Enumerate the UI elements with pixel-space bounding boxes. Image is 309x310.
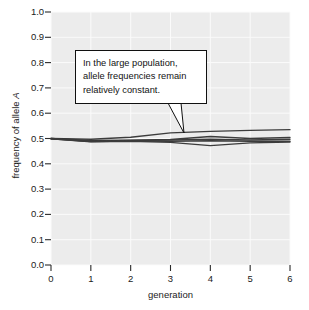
y-axis-title-allele-letter: A (10, 92, 21, 98)
callout-line-2: allele frequencies remain (83, 70, 203, 83)
x-axis-tick-labels: 0123456 (0, 0, 309, 310)
x-tick-label: 1 (81, 273, 101, 284)
x-tick-label: 4 (200, 273, 220, 284)
y-axis-title: frequency of allele A (10, 66, 21, 206)
callout-line-1: In the large population, (83, 57, 203, 70)
x-tick-label: 2 (121, 273, 141, 284)
x-tick-label: 0 (41, 273, 61, 284)
x-tick-label: 5 (240, 273, 260, 284)
y-axis-title-text: frequency of allele (10, 99, 21, 179)
large-population-callout: In the large population, allele frequenc… (75, 50, 207, 104)
callout-line-3: relatively constant. (83, 84, 203, 97)
callout-text: In the large population, allele frequenc… (83, 57, 203, 97)
x-tick-label: 3 (161, 273, 181, 284)
x-axis-title: generation (51, 289, 290, 300)
x-tick-label: 6 (280, 273, 300, 284)
allele-frequency-chart: 0.00.10.20.30.40.50.60.70.80.91.0 012345… (0, 0, 309, 310)
